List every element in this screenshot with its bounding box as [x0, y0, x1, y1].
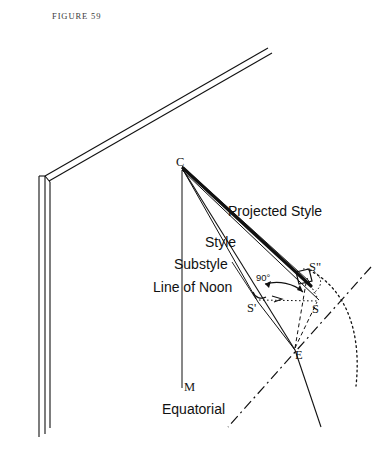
label-line-of-noon: Line of Noon [153, 279, 232, 295]
ninety-degree-arc [265, 282, 303, 292]
point-label-e: E [295, 348, 303, 362]
sprime-to-e-line [258, 302, 295, 350]
point-label-s-double-prime: S" [309, 260, 321, 274]
sprime-to-s-dotted [259, 300, 318, 301]
angle-pointer-tick [272, 296, 282, 302]
label-style: Style [205, 234, 236, 250]
wall-plane [39, 48, 272, 437]
label-projected-style: Projected Style [228, 203, 322, 219]
point-label-s-prime: S' [247, 301, 256, 315]
equatorial-line [228, 267, 371, 427]
wall-top-edge-inner [49, 53, 272, 181]
point-label-s: S [312, 302, 319, 316]
label-equatorial: Equatorial [162, 401, 225, 417]
wall-top-edge-outer [45, 48, 268, 176]
label-substyle: Substyle [174, 256, 228, 272]
point-label-m: M [184, 380, 195, 394]
figure-page: FIGURE 59 [0, 0, 391, 461]
point-label-c: C [176, 155, 184, 169]
sundial-diagram: Projected Style Style Substyle Line of N… [0, 0, 391, 461]
wall-top-cap-right [45, 176, 50, 182]
e-to-sdoubleprime-dashed [295, 283, 306, 348]
label-ninety-degrees: 90° [256, 272, 271, 283]
